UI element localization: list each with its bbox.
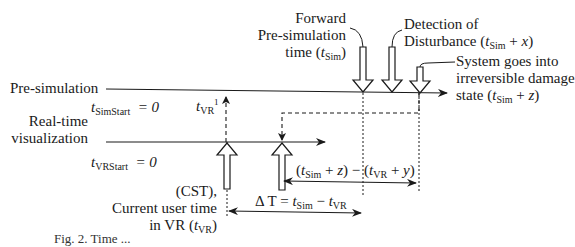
vr-start-label: tVRStart = 0 (91, 154, 157, 171)
damage-label: System goes into irreversible damage sta… (456, 53, 575, 104)
cst-label: (CST), Current user time in VR (tVR) (100, 183, 217, 234)
forward-time-arrow (353, 47, 373, 92)
forward-time-label: Forward Pre-simulation time (tSim) (250, 10, 346, 61)
damage-leader (420, 62, 455, 67)
cst-arrow (217, 143, 237, 189)
delta-t-dimension (229, 211, 361, 213)
margin-dimension (284, 181, 416, 183)
pre-simulation-axis (106, 89, 447, 93)
detection-leader (392, 30, 402, 47)
feedback-dashed-path (282, 93, 419, 140)
pre-simulation-label: Pre-simulation (10, 80, 98, 97)
damage-arrow (410, 67, 430, 93)
tvr-marker-label: tVR1 (196, 98, 219, 115)
sim-start-label: tSimStart = 0 (91, 99, 159, 116)
margin-label: (tSim + z) − (tVR + y) (296, 162, 415, 179)
vr-sync-arrow (272, 143, 292, 190)
figure-caption: Fig. 2. Time ... (54, 231, 131, 247)
detection-arrow (382, 47, 402, 92)
real-time-label: Real-time visualization (10, 113, 88, 147)
detection-label: Detection of Disturbance (tSim + x) (404, 16, 533, 50)
delta-t-label: Δ T = tSim − tVR (255, 193, 347, 210)
forward-leader (350, 28, 363, 47)
